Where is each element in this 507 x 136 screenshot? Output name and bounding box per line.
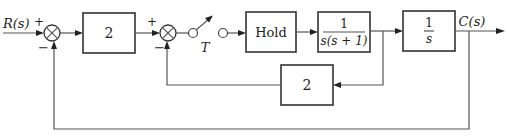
input-label: R(s) bbox=[2, 16, 30, 31]
feedback-gain-label: 2 bbox=[303, 77, 312, 93]
output-label: C(s) bbox=[459, 14, 486, 29]
sum2-minus-sign: − bbox=[154, 40, 165, 55]
block-diagram: R(s) + − 2 + − T Hold 1 s bbox=[0, 0, 507, 136]
integrator-numerator: 1 bbox=[425, 16, 433, 30]
summing-junction-2 bbox=[160, 25, 176, 41]
sum1-minus-sign: − bbox=[38, 40, 49, 55]
inner-feedback-arrow bbox=[333, 82, 341, 88]
hold-to-plant-arrow bbox=[310, 29, 318, 35]
sampling-period-label: T bbox=[201, 40, 211, 55]
forward-gain-label: 2 bbox=[105, 25, 114, 41]
sum1-plus-sign: + bbox=[34, 15, 44, 29]
sum2-plus-sign: + bbox=[147, 15, 157, 29]
sampler-to-hold-arrow bbox=[238, 30, 246, 36]
input-arrow bbox=[36, 30, 44, 36]
outer-feedback-arrow bbox=[51, 41, 57, 49]
gain-to-sum2-arrow bbox=[152, 30, 160, 36]
hold-label: Hold bbox=[255, 25, 287, 40]
summing-junction-1 bbox=[44, 25, 60, 41]
sum1-to-gain-arrow bbox=[75, 30, 83, 36]
plant-numerator: 1 bbox=[340, 17, 348, 31]
sampler-switch bbox=[189, 16, 228, 38]
plant-denominator: s(s + 1) bbox=[321, 34, 368, 48]
output-arrow bbox=[496, 28, 505, 34]
plant-to-integrator-arrow bbox=[395, 28, 403, 34]
integrator-denominator: s bbox=[426, 32, 432, 46]
